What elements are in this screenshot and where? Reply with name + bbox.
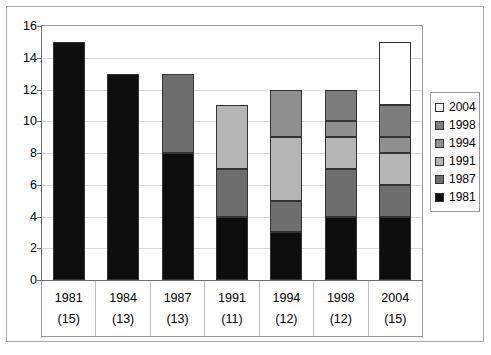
y-tick-label: 12 <box>7 84 37 96</box>
x-tick-sublabel: (12) <box>330 312 352 326</box>
bar-segment-1987[interactable] <box>325 169 357 217</box>
x-axis-cell-2004: 2004(15) <box>369 281 422 336</box>
bar-segment-1981[interactable] <box>162 153 194 280</box>
x-tick-label: 1991 <box>218 291 246 305</box>
bar-segment-1981[interactable] <box>325 217 357 281</box>
y-tick-label: 14 <box>7 52 37 64</box>
legend-label: 1987 <box>449 173 476 185</box>
stacked-bar[interactable] <box>107 26 139 280</box>
legend-item-1994[interactable]: 1994 <box>435 134 476 152</box>
legend-label: 1991 <box>449 155 476 167</box>
legend-label: 2004 <box>449 101 476 113</box>
bar-segment-1994[interactable] <box>270 90 302 138</box>
bar-segment-1994[interactable] <box>325 121 357 137</box>
x-tick-label: 2004 <box>381 291 409 305</box>
y-axis: 1614121086420 <box>3 25 37 281</box>
bar-segment-1987[interactable] <box>379 185 411 217</box>
y-tick-label: 0 <box>7 274 37 286</box>
legend-label: 1981 <box>449 191 476 203</box>
x-axis-cell-1987: 1987(13) <box>151 281 205 336</box>
legend-item-1987[interactable]: 1987 <box>435 170 476 188</box>
x-tick-label: 1984 <box>109 291 137 305</box>
x-axis-cell-1991: 1991(11) <box>205 281 259 336</box>
legend-item-1998[interactable]: 1998 <box>435 116 476 134</box>
chart-figure: 1614121086420 1981(15)1984(13)1987(13)19… <box>0 0 491 355</box>
bar-segment-1991[interactable] <box>325 137 357 169</box>
x-tick-label: 1981 <box>55 291 83 305</box>
legend-label: 1998 <box>449 119 476 131</box>
bar-segment-2004[interactable] <box>379 42 411 106</box>
x-axis-cell-1981: 1981(15) <box>42 281 96 336</box>
bar-segment-1981[interactable] <box>379 217 411 281</box>
bar-segment-1987[interactable] <box>162 74 194 153</box>
bar-segment-1991[interactable] <box>379 153 411 185</box>
bar-column-1981 <box>42 26 96 280</box>
x-axis-cell-1998: 1998(12) <box>314 281 368 336</box>
legend-swatch-icon <box>435 121 444 130</box>
bar-segment-1991[interactable] <box>216 105 248 169</box>
legend-label: 1994 <box>449 137 476 149</box>
y-tick-label: 6 <box>7 179 37 191</box>
x-tick-sublabel: (15) <box>384 312 406 326</box>
legend-item-2004[interactable]: 2004 <box>435 98 476 116</box>
x-tick-sublabel: (13) <box>166 312 188 326</box>
x-tick-label: 1994 <box>272 291 300 305</box>
bar-segment-1981[interactable] <box>53 42 85 280</box>
x-tick-sublabel: (11) <box>221 312 242 326</box>
x-tick-sublabel: (12) <box>275 312 297 326</box>
stacked-bar[interactable] <box>270 26 302 280</box>
bar-segment-1981[interactable] <box>216 217 248 281</box>
stacked-bar[interactable] <box>53 26 85 280</box>
x-tick-sublabel: (13) <box>112 312 134 326</box>
stacked-bar[interactable] <box>325 26 357 280</box>
y-tick-label: 16 <box>7 20 37 32</box>
x-axis-cell-1994: 1994(12) <box>260 281 314 336</box>
bar-column-1994 <box>259 26 313 280</box>
x-tick-label: 1987 <box>164 291 192 305</box>
plot-area <box>41 25 423 281</box>
bar-segment-1998[interactable] <box>379 105 411 137</box>
legend-swatch-icon <box>435 175 444 184</box>
legend-item-1981[interactable]: 1981 <box>435 188 476 206</box>
stacked-bar[interactable] <box>162 26 194 280</box>
legend-swatch-icon <box>435 193 444 202</box>
y-tick-label: 8 <box>7 147 37 159</box>
legend-swatch-icon <box>435 157 444 166</box>
bar-column-1991 <box>205 26 259 280</box>
stacked-bar[interactable] <box>379 26 411 280</box>
x-tick-label: 1998 <box>327 291 355 305</box>
legend-swatch-icon <box>435 103 444 112</box>
bar-column-1987 <box>151 26 205 280</box>
bar-segment-1991[interactable] <box>270 137 302 201</box>
x-tick-sublabel: (15) <box>58 312 80 326</box>
legend-item-1991[interactable]: 1991 <box>435 152 476 170</box>
x-axis-label-table: 1981(15)1984(13)1987(13)1991(11)1994(12)… <box>41 281 423 337</box>
bar-segment-1987[interactable] <box>270 201 302 233</box>
x-axis-cell-1984: 1984(13) <box>96 281 150 336</box>
legend-swatch-icon <box>435 139 444 148</box>
bar-segment-1998[interactable] <box>325 90 357 122</box>
stacked-bar[interactable] <box>216 26 248 280</box>
bar-column-2004 <box>368 26 422 280</box>
bar-column-1998 <box>313 26 367 280</box>
bar-segment-1981[interactable] <box>270 232 302 280</box>
legend: 200419981994199119871981 <box>430 92 480 212</box>
bar-segment-1987[interactable] <box>216 169 248 217</box>
bar-segment-1981[interactable] <box>107 74 139 280</box>
y-tick-label: 4 <box>7 211 37 223</box>
bar-column-1984 <box>96 26 150 280</box>
bar-segment-1994[interactable] <box>379 137 411 153</box>
y-tick-label: 2 <box>7 242 37 254</box>
y-tick-label: 10 <box>7 115 37 127</box>
